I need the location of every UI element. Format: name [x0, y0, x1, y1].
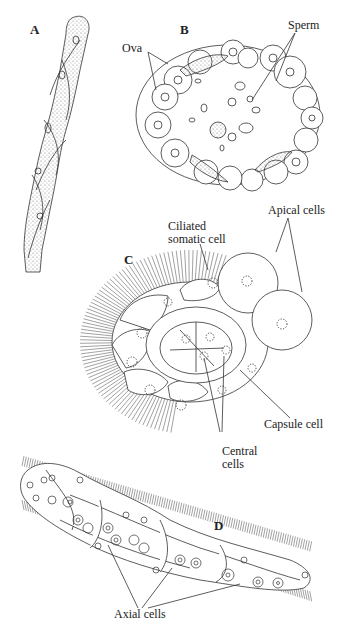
- panel-c-letter: C: [124, 252, 133, 268]
- figure-canvas: [0, 0, 340, 625]
- label-axial: Axial cells: [114, 608, 166, 621]
- label-capsule: Capsule cell: [264, 418, 323, 431]
- label-sperm: Sperm: [288, 19, 319, 32]
- panel-b-ring: [136, 40, 323, 191]
- label-ciliated-2: somatic cell: [168, 233, 226, 246]
- label-central-2: cells: [222, 458, 244, 471]
- panel-a-organism: [24, 16, 89, 272]
- label-apical: Apical cells: [268, 204, 325, 217]
- panel-a-letter: A: [30, 22, 39, 38]
- panel-b-letter: B: [180, 22, 189, 38]
- panel-d-body: [21, 463, 311, 590]
- label-ova: Ova: [122, 42, 142, 55]
- panel-d-letter: D: [214, 518, 223, 534]
